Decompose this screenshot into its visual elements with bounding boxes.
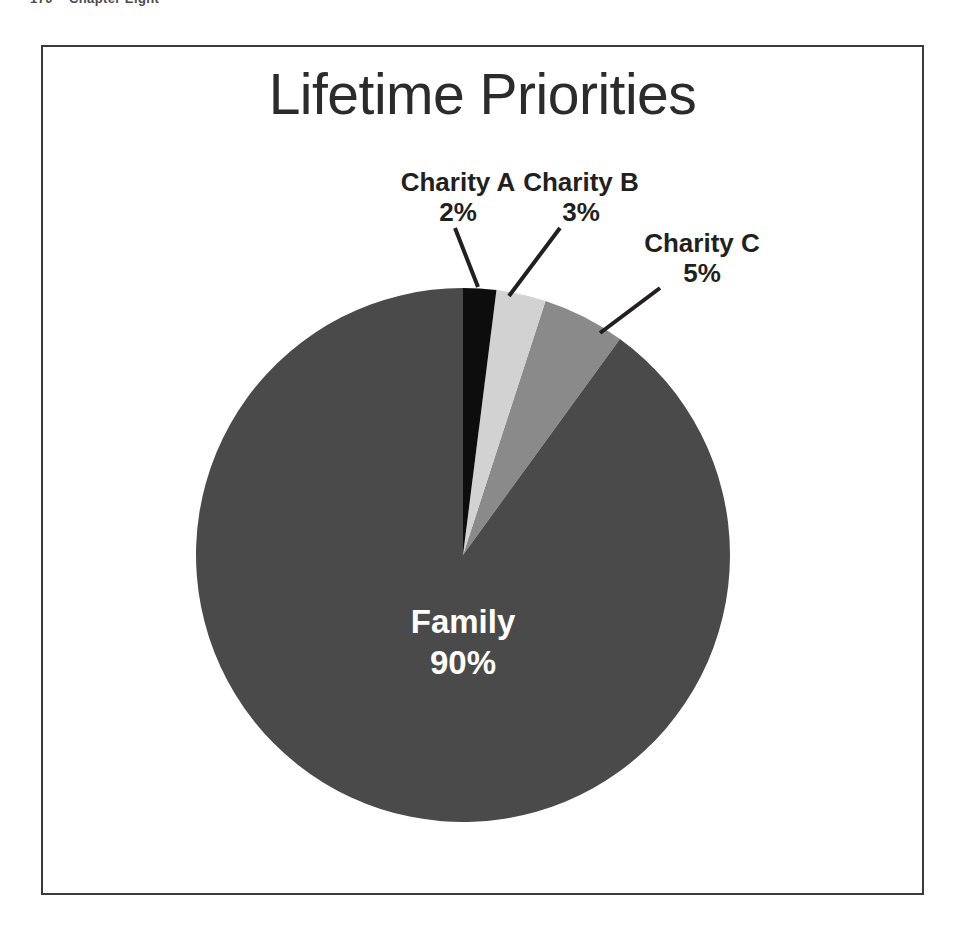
running-head-title: Chapter Eight [69,0,159,6]
running-head: 170Chapter Eight [30,0,330,7]
callout-charity-b-name: Charity B [523,167,639,197]
callout-charity-a: Charity A 2% [393,167,523,228]
page-folio: 170 [30,0,53,6]
label-family: Family 90% [363,601,563,684]
label-family-name: Family [411,603,516,640]
callout-charity-c-name: Charity C [644,228,760,258]
callout-charity-c: Charity C 5% [622,228,782,289]
callout-charity-b-percent: 3% [516,197,646,227]
callout-charity-a-percent: 2% [393,197,523,227]
label-family-percent: 90% [363,642,563,683]
callout-charity-a-name: Charity A [401,167,516,197]
chart-title: Lifetime Priorities [43,61,922,127]
callout-charity-c-percent: 5% [622,258,782,288]
callout-charity-b: Charity B 3% [516,167,646,228]
